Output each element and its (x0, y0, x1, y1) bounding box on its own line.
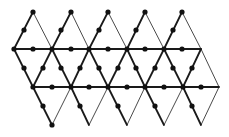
lattice-dot (11, 46, 16, 51)
lattice-dot (30, 9, 35, 14)
thin-edge (164, 87, 183, 125)
thin-edge (33, 12, 52, 49)
lattice-dot (21, 65, 26, 70)
thin-edge (71, 12, 89, 49)
lattice-dot (21, 27, 26, 32)
lattice-dot (142, 46, 147, 51)
triangle-lattice-diagram (0, 0, 229, 137)
lattice-dot (30, 84, 35, 89)
thin-edge (127, 87, 145, 125)
lattice-dot (180, 84, 185, 89)
lattice-dot (115, 65, 120, 70)
lattice-dot (189, 103, 194, 108)
thin-edge (108, 12, 127, 49)
lattice-dot (96, 65, 101, 70)
lattice-dot (105, 9, 110, 14)
thin-edge (52, 87, 71, 125)
lattice-dot (49, 84, 54, 89)
lattice-dot (179, 9, 184, 14)
lattice-dot (68, 84, 73, 89)
lattice-dot (86, 46, 91, 51)
lattice-dot (124, 46, 129, 51)
lattice-dot (49, 46, 54, 51)
lattice-dot (77, 65, 82, 70)
lattice-dot (133, 65, 138, 70)
lattice-dot (152, 65, 157, 70)
lattice-dot (142, 84, 147, 89)
lattice-dot (105, 84, 110, 89)
lattice-dot (161, 46, 166, 51)
lattice-dot (68, 46, 73, 51)
lattice-dot (152, 103, 157, 108)
lattice-dot (161, 84, 166, 89)
lattice-dot (40, 65, 45, 70)
lattice-dot (115, 103, 120, 108)
thin-edge (89, 87, 108, 125)
lattice-dot (179, 46, 184, 51)
lattice-dot (58, 27, 63, 32)
lattice-dot (198, 84, 203, 89)
thin-edge (182, 12, 201, 49)
lattice-dot (49, 122, 54, 127)
lattice-dot (124, 84, 129, 89)
lattice-dot (105, 46, 110, 51)
lattice-dot (68, 9, 73, 14)
lattice-dot (142, 9, 147, 14)
lattice-dot (170, 65, 175, 70)
lattice-dot (170, 27, 175, 32)
lattice-dot (189, 65, 194, 70)
thin-edge (201, 49, 219, 87)
lattice-dot (96, 27, 101, 32)
lattice-dot (58, 65, 63, 70)
lattice-dot (77, 103, 82, 108)
thin-edge (145, 12, 164, 49)
lattice-dot (86, 84, 91, 89)
lattice-dot (30, 46, 35, 51)
lattice-dot (133, 27, 138, 32)
thin-edge (201, 87, 219, 125)
lattice-dot (40, 103, 45, 108)
